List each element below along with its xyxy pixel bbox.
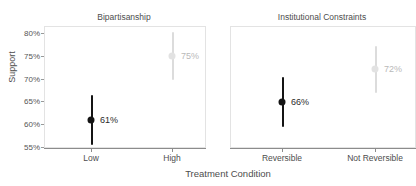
point-marker-high bbox=[169, 53, 176, 60]
x-axis-line-left bbox=[44, 148, 206, 149]
x-tick-mark-reversible bbox=[282, 149, 283, 152]
panel-institutional-constraints: 66% 72% bbox=[230, 26, 416, 148]
panel-title-bipartisanship: Bipartisanship bbox=[42, 12, 206, 22]
y-tick-label-55: 55% bbox=[14, 143, 40, 152]
x-tick-mark-high bbox=[172, 149, 173, 152]
y-tick-label-60: 60% bbox=[14, 120, 40, 129]
y-tick-label-70: 70% bbox=[14, 75, 40, 84]
point-marker-low bbox=[88, 117, 95, 124]
panel-bipartisanship: 61% 75% bbox=[44, 26, 206, 148]
x-tick-label-low: Low bbox=[83, 153, 99, 163]
value-label-reversible: 66% bbox=[291, 97, 309, 107]
y-tick-label-80: 80% bbox=[14, 29, 40, 38]
x-tick-label-high: High bbox=[163, 153, 180, 163]
x-axis-line-right bbox=[230, 148, 416, 149]
panel-title-institutional-constraints: Institutional Constraints bbox=[228, 12, 416, 22]
y-tick-label-75: 75% bbox=[14, 52, 40, 61]
x-tick-mark-low bbox=[91, 149, 92, 152]
point-marker-not-reversible bbox=[372, 66, 379, 73]
y-axis-title: Support bbox=[7, 29, 17, 105]
value-label-low: 61% bbox=[100, 115, 118, 125]
value-label-high: 75% bbox=[181, 51, 199, 61]
x-tick-label-reversible: Reversible bbox=[262, 153, 302, 163]
point-marker-reversible bbox=[279, 99, 286, 106]
y-tick-label-65: 65% bbox=[14, 97, 40, 106]
x-axis-title: Treatment Condition bbox=[40, 168, 416, 179]
value-label-not-reversible: 72% bbox=[384, 64, 402, 74]
x-tick-mark-not-reversible bbox=[375, 149, 376, 152]
chart-figure: Support Bipartisanship Institutional Con… bbox=[0, 0, 416, 186]
x-tick-label-not-reversible: Not Reversible bbox=[347, 153, 403, 163]
